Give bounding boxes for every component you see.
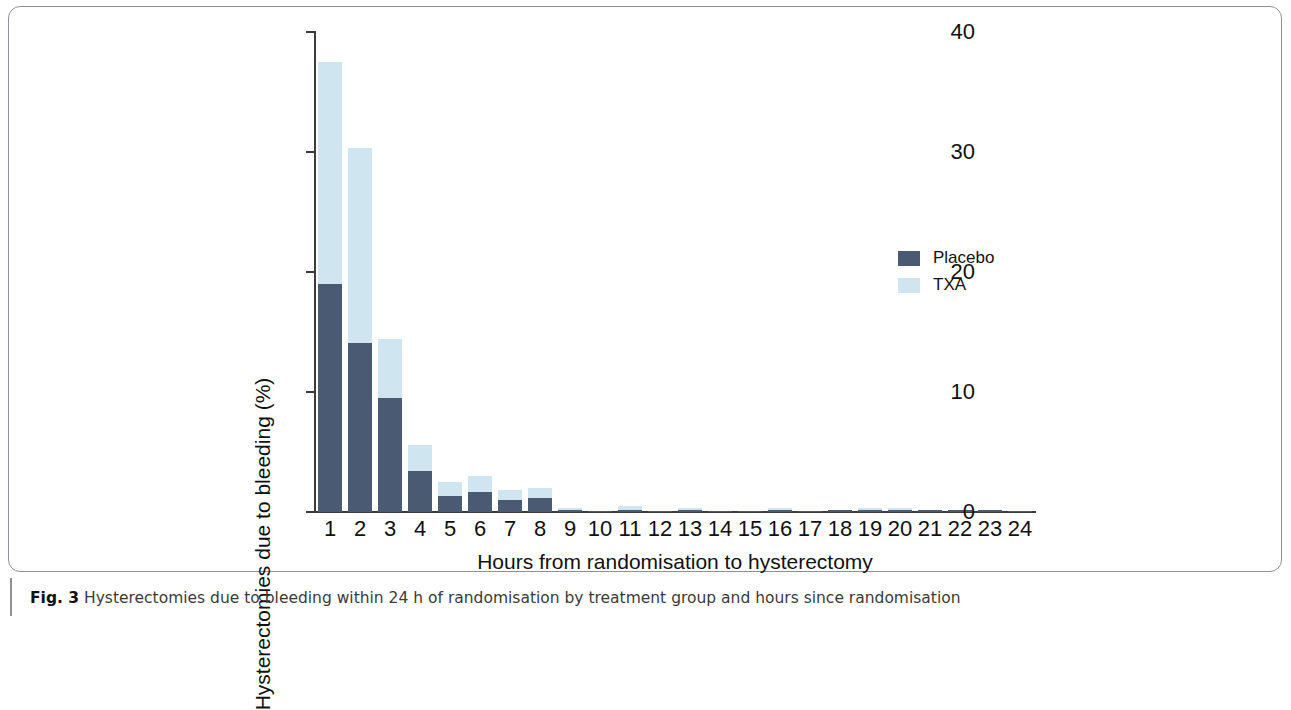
y-axis-tick-label: 40 <box>951 19 975 45</box>
bar-group[interactable] <box>318 32 342 512</box>
bar-group[interactable] <box>498 32 522 512</box>
figure-caption-text: Hysterectomies due to bleeding within 24… <box>79 589 960 607</box>
chart-legend: PlaceboTXA <box>898 248 994 302</box>
figure-caption: Fig. 3 Hysterectomies due to bleeding wi… <box>30 588 1270 608</box>
figure-number: Fig. 3 <box>30 589 79 607</box>
bar-group[interactable] <box>528 32 552 512</box>
bar-placebo[interactable] <box>318 284 342 512</box>
chart-figure: Hysterectomies due to bleeding (%) Hours… <box>0 0 1291 573</box>
bar-placebo[interactable] <box>558 510 582 512</box>
bar-group[interactable] <box>408 32 432 512</box>
y-axis-tick-label: 20 <box>951 259 975 285</box>
bar-group[interactable] <box>1008 32 1032 512</box>
bar-placebo[interactable] <box>438 496 462 512</box>
y-axis-tick <box>306 151 315 153</box>
bar-group[interactable] <box>768 32 792 512</box>
legend-swatch-icon <box>898 278 920 293</box>
bar-placebo[interactable] <box>408 471 432 512</box>
bar-group[interactable] <box>858 32 882 512</box>
bar-group[interactable] <box>828 32 852 512</box>
caption-rule <box>10 578 12 616</box>
bar-placebo[interactable] <box>1008 511 1032 512</box>
y-axis-tick <box>306 271 315 273</box>
bar-placebo[interactable] <box>978 510 1002 512</box>
x-axis-tick-label: 24 <box>1000 516 1040 542</box>
bar-group[interactable] <box>378 32 402 512</box>
bar-placebo[interactable] <box>888 510 912 512</box>
bar-placebo[interactable] <box>378 398 402 512</box>
bar-group[interactable] <box>348 32 372 512</box>
bar-group[interactable] <box>738 32 762 512</box>
bar-group[interactable] <box>648 32 672 512</box>
y-axis-tick-label: 30 <box>951 139 975 165</box>
y-axis-tick <box>306 511 315 513</box>
bar-group[interactable] <box>798 32 822 512</box>
bar-placebo[interactable] <box>498 500 522 512</box>
bar-placebo[interactable] <box>618 510 642 512</box>
bar-placebo[interactable] <box>918 510 942 512</box>
legend-item-txa[interactable]: TXA <box>898 275 994 295</box>
bar-placebo[interactable] <box>678 510 702 512</box>
bar-group[interactable] <box>678 32 702 512</box>
bar-group[interactable] <box>438 32 462 512</box>
bar-placebo[interactable] <box>828 510 852 512</box>
y-axis-title: Hysterectomies due to bleeding (%) <box>251 378 275 710</box>
bar-group[interactable] <box>708 32 732 512</box>
y-axis-tick <box>306 31 315 33</box>
y-axis-tick <box>306 391 315 393</box>
legend-item-placebo[interactable]: Placebo <box>898 248 994 268</box>
bar-placebo[interactable] <box>588 511 612 512</box>
x-axis-title: Hours from randomisation to hysterectomy <box>477 550 873 574</box>
bar-placebo[interactable] <box>858 510 882 512</box>
bar-placebo[interactable] <box>768 510 792 512</box>
bar-placebo[interactable] <box>528 498 552 512</box>
bar-placebo[interactable] <box>468 492 492 512</box>
bar-group[interactable] <box>468 32 492 512</box>
legend-swatch-icon <box>898 251 920 266</box>
bar-placebo[interactable] <box>708 511 732 512</box>
bar-group[interactable] <box>588 32 612 512</box>
bar-placebo[interactable] <box>348 343 372 512</box>
bar-placebo[interactable] <box>648 511 672 512</box>
y-axis-tick-label: 10 <box>951 379 975 405</box>
bar-group[interactable] <box>618 32 642 512</box>
bar-placebo[interactable] <box>738 511 762 512</box>
bar-placebo[interactable] <box>798 511 822 512</box>
bar-group[interactable] <box>558 32 582 512</box>
